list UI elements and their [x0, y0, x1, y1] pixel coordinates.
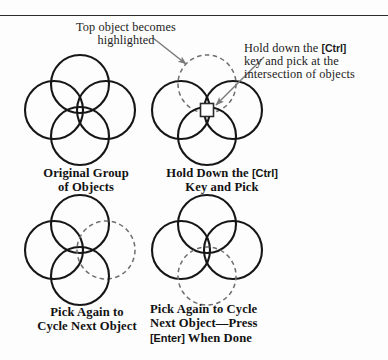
figure-root: Top object becomes highlighted Hold down…	[0, 0, 388, 360]
circle-right	[204, 81, 262, 139]
circle-left	[25, 81, 83, 139]
caption-pick-cycle-press-enter: Pick Again to Cycle Next Object—Press [E…	[150, 302, 300, 345]
caption-hold-ctrl-key-pick: Hold Down the [Ctrl] Key and Pick	[152, 166, 292, 195]
callout-hold-ctrl-intersection: Hold down the [Ctrl] key and pick at the…	[244, 42, 388, 82]
caption-pickagain-line1: Pick Again to	[18, 305, 156, 319]
callout-right-line3: intersection of objects	[244, 68, 388, 81]
circle-top-highlighted	[178, 55, 236, 113]
circle-top	[178, 195, 236, 253]
caption-holdctrl-line2: Key and Pick	[152, 180, 292, 194]
caption-original-line2: of Objects	[24, 180, 148, 194]
key-enter-caption: [Enter]	[150, 332, 185, 344]
caption-holdctrl-line1: Hold Down the [Ctrl]	[152, 166, 292, 180]
circle-left	[25, 221, 83, 279]
circle-bottom-highlighted	[178, 247, 236, 305]
caption-original-group: Original Group of Objects	[24, 166, 148, 195]
pickbox-cursor	[201, 104, 214, 117]
callout-right-line1-text: Hold down the	[244, 41, 322, 55]
circle-bottom	[51, 247, 109, 305]
caption-pickcycle-line3-text: When Done	[185, 331, 252, 345]
key-ctrl-callout: [Ctrl]	[322, 42, 347, 54]
circle-right-highlighted	[77, 221, 135, 279]
caption-pickcycle-line2: Next Object—Press	[150, 316, 300, 330]
circle-left	[152, 81, 210, 139]
circle-left	[152, 221, 210, 279]
callout-top-line2: highlighted	[62, 34, 190, 47]
diagram-pick-again-cycle	[25, 195, 135, 305]
circle-top	[51, 195, 109, 253]
circle-right	[204, 221, 262, 279]
caption-pick-again-cycle: Pick Again to Cycle Next Object	[18, 305, 156, 334]
top-horizontal-rule	[0, 15, 388, 16]
circle-top	[51, 55, 109, 113]
key-ctrl-caption: [Ctrl]	[252, 167, 278, 179]
diagram-pick-cycle-press-enter	[152, 195, 262, 305]
caption-pickcycle-line1: Pick Again to Cycle	[150, 302, 300, 316]
caption-holdctrl-line1-text: Hold Down the	[166, 166, 252, 180]
callout-top-object-highlighted: Top object becomes highlighted	[62, 21, 190, 47]
circle-bottom	[178, 107, 236, 165]
diagram-original-group	[25, 55, 135, 165]
caption-original-line1: Original Group	[24, 166, 148, 180]
circle-right	[77, 81, 135, 139]
caption-pickcycle-line3: [Enter] When Done	[150, 331, 300, 345]
circle-bottom	[51, 107, 109, 165]
caption-pickagain-line2: Cycle Next Object	[18, 319, 156, 333]
